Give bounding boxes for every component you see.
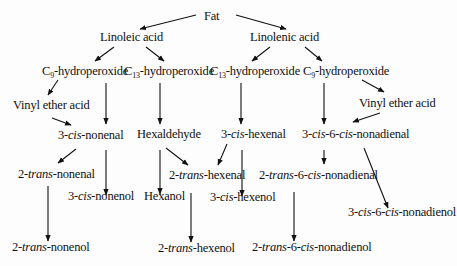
node-hexaldehyde: Hexaldehyde — [137, 127, 201, 141]
node-3-cis-nonenal: 3-cis-nonenal — [58, 128, 123, 142]
node-linoleic-acid: Linoleic acid — [100, 30, 163, 44]
node-2-trans-6-cis-nonadienal: 2-trans-6-cis-nonadienal — [259, 168, 378, 182]
node-c9-hydroperoxide-right: C9-hydroperoxide — [303, 64, 389, 78]
node-vinyl-ether-acid-left: Vinyl ether acid — [13, 98, 90, 112]
node-2-trans-nonenal: 2-trans-nonenal — [18, 167, 95, 181]
node-3-cis-6-cis-nonadienol: 3-cis-6-cis-nonadienol — [348, 205, 456, 219]
node-vinyl-ether-acid-right: Vinyl ether acid — [359, 96, 436, 110]
node-2-trans-hexenol: 2-trans-hexenol — [158, 241, 235, 255]
arrow-fat-linolenic — [236, 15, 286, 29]
node-c13-hydroperoxide-left: C13-hydroperoxide — [124, 64, 214, 78]
node-c9-hydroperoxide-left: C9-hydroperoxide — [42, 64, 128, 78]
node-fat: Fat — [204, 9, 219, 23]
node-3-cis-hexenal: 3-cis-hexenal — [221, 127, 286, 141]
node-2-trans-nonenol: 2-trans-nonenol — [12, 240, 90, 254]
node-linolenic-acid: Linolenic acid — [250, 30, 319, 44]
pathway-diagram: Fat Linoleic acid Linolenic acid C9-hydr… — [0, 0, 457, 266]
node-2-trans-hexenal: 2-trans-hexenal — [169, 168, 245, 182]
node-hexanol: Hexanol — [144, 189, 185, 203]
node-2-trans-6-cis-nonadienol: 2-trans-6-cis-nonadienol — [252, 240, 372, 254]
node-3-cis-nonenol: 3-cis-nonenol — [68, 189, 134, 203]
node-c13-hydroperoxide-right: C13-hydroperoxide — [210, 64, 300, 78]
arrow-fat-linoleic — [140, 15, 196, 29]
node-3-cis-hexenol: 3-cis-hexenol — [210, 190, 275, 204]
node-3-cis-6-cis-nonadienal: 3-cis-6-cis-nonadienal — [302, 127, 409, 141]
